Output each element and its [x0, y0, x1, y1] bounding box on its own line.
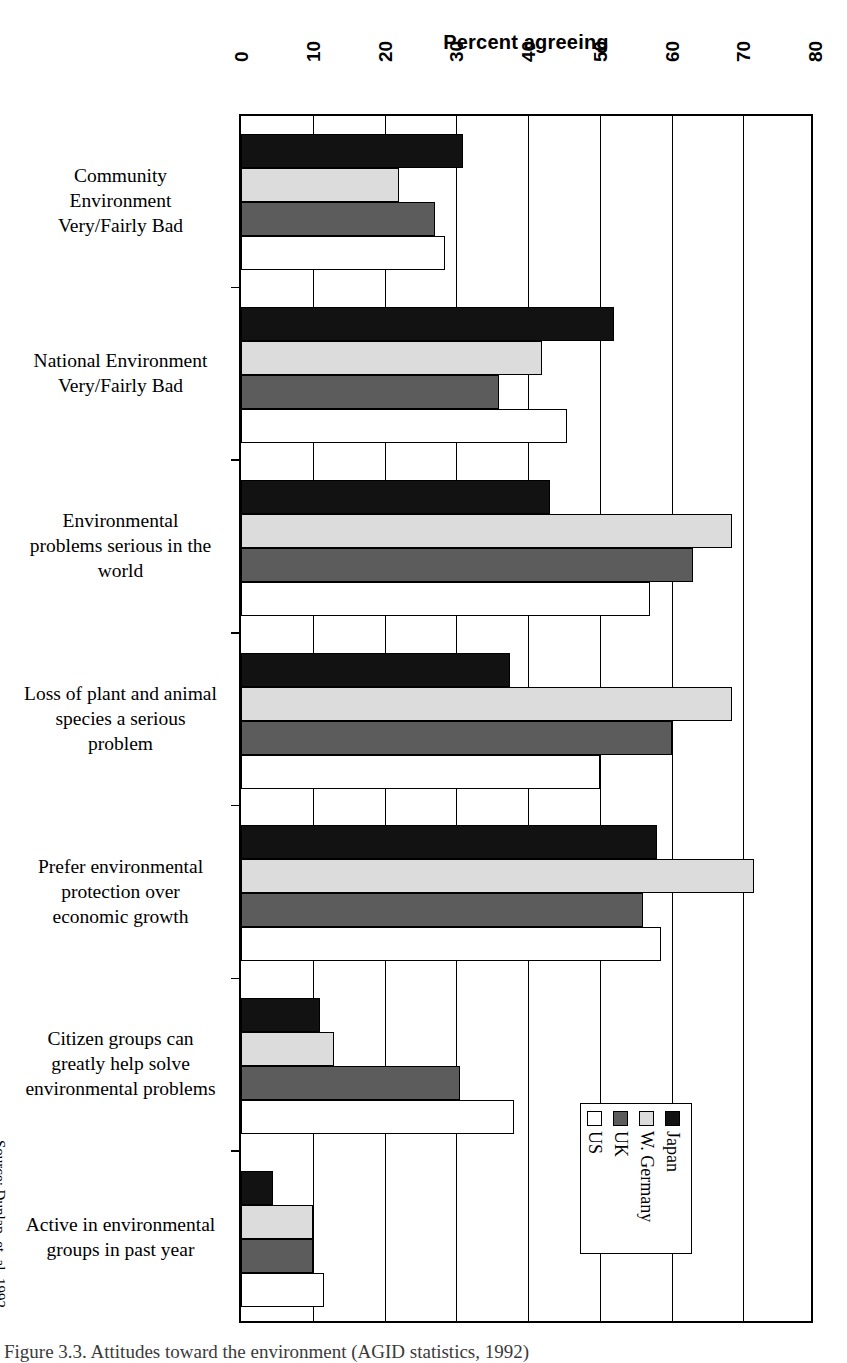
category-label-5: Citizen groups cangreatly help solveenvi… — [8, 1026, 233, 1101]
legend-item-japan: Japan — [660, 1111, 686, 1255]
legend-item-uk: UK — [608, 1111, 634, 1255]
x-tick-label-40: 40 — [518, 41, 540, 62]
category-tick — [231, 459, 240, 461]
bar-wgermany-2 — [241, 514, 732, 548]
legend-label: UK — [611, 1131, 632, 1157]
legend-label: W. Germany — [637, 1131, 658, 1222]
category-label-line: world — [8, 558, 233, 583]
category-label-line: groups in past year — [8, 1237, 233, 1262]
bar-wgermany-3 — [241, 687, 732, 721]
bar-japan-2 — [241, 480, 550, 514]
category-label-line: Active in environmental — [8, 1212, 233, 1237]
category-label-line: Community — [8, 163, 233, 188]
x-tick-label-0: 0 — [231, 51, 253, 62]
bar-uk-0 — [241, 202, 435, 236]
x-tick-label-80: 80 — [805, 41, 827, 62]
bar-japan-0 — [241, 134, 463, 168]
category-label-4: Prefer environmentalprotection overecono… — [8, 854, 233, 929]
bar-japan-4 — [241, 825, 657, 859]
bar-wgermany-4 — [241, 859, 754, 893]
category-label-line: greatly help solve — [8, 1051, 233, 1076]
x-tick-label-30: 30 — [446, 41, 468, 62]
bar-wgermany-6 — [241, 1205, 313, 1239]
bar-japan-1 — [241, 307, 614, 341]
category-tick — [231, 1150, 240, 1152]
category-label-line: environmental problems — [8, 1076, 233, 1101]
category-label-6: Active in environmentalgroups in past ye… — [8, 1212, 233, 1262]
bar-us-1 — [241, 409, 567, 443]
x-tick-label-10: 10 — [303, 41, 325, 62]
bar-us-3 — [241, 755, 600, 789]
x-tick-label-20: 20 — [375, 41, 397, 62]
figure-caption: Figure 3.3. Attitudes toward the environ… — [4, 1341, 529, 1363]
bar-japan-3 — [241, 653, 510, 687]
legend-items: JapanW. GermanyUKUS — [581, 1104, 693, 1255]
bar-us-4 — [241, 927, 661, 961]
legend-label: Japan — [663, 1131, 684, 1172]
legend-swatch-uk-icon — [614, 1111, 629, 1126]
bar-uk-2 — [241, 548, 693, 582]
bar-us-0 — [241, 236, 445, 270]
category-tick — [231, 632, 240, 634]
legend-swatch-wgermany-icon — [640, 1111, 655, 1126]
legend-label: US — [585, 1131, 606, 1154]
legend-swatch-us-icon — [588, 1111, 603, 1126]
bar-uk-6 — [241, 1239, 313, 1273]
bar-us-6 — [241, 1273, 324, 1307]
category-label-line: Prefer environmental — [8, 854, 233, 879]
category-label-1: National EnvironmentVery/Fairly Bad — [8, 348, 233, 398]
bar-wgermany-0 — [241, 168, 399, 202]
bar-uk-3 — [241, 721, 672, 755]
bar-uk-5 — [241, 1066, 460, 1100]
category-label-line: species a serious — [8, 706, 233, 731]
category-label-line: Very/Fairly Bad — [8, 373, 233, 398]
category-label-3: Loss of plant and animalspecies a seriou… — [8, 681, 233, 756]
category-label-line: Loss of plant and animal — [8, 681, 233, 706]
bar-uk-4 — [241, 893, 643, 927]
bar-japan-6 — [241, 1171, 273, 1205]
legend-item-wgermany: W. Germany — [634, 1111, 660, 1255]
x-tick-label-70: 70 — [733, 41, 755, 62]
category-label-line: economic growth — [8, 904, 233, 929]
legend-swatch-japan-icon — [666, 1111, 681, 1126]
category-label-line: National Environment — [8, 348, 233, 373]
category-label-line: Environmental — [8, 508, 233, 533]
source-note: Source: Dunlap, et. al. 1992 — [0, 1140, 8, 1308]
category-label-line: Citizen groups can — [8, 1026, 233, 1051]
category-tick — [231, 978, 240, 980]
category-label-line: problems serious in the — [8, 533, 233, 558]
category-label-line: problem — [8, 731, 233, 756]
x-tick-label-50: 50 — [590, 41, 612, 62]
bar-wgermany-5 — [241, 1032, 334, 1066]
category-tick — [231, 287, 240, 289]
legend-item-us: US — [582, 1111, 608, 1255]
x-tick-label-60: 60 — [662, 41, 684, 62]
bar-us-5 — [241, 1100, 514, 1134]
bar-japan-5 — [241, 998, 320, 1032]
gridline — [743, 116, 744, 1321]
legend: JapanW. GermanyUKUS — [580, 1103, 692, 1254]
bar-wgermany-1 — [241, 341, 542, 375]
category-label-2: Environmentalproblems serious in theworl… — [8, 508, 233, 583]
category-label-line: Environment — [8, 188, 233, 213]
category-label-line: protection over — [8, 879, 233, 904]
category-tick — [231, 805, 240, 807]
bar-uk-1 — [241, 375, 499, 409]
bar-us-2 — [241, 582, 650, 616]
plot-area: JapanW. GermanyUKUS — [239, 114, 813, 1323]
category-label-0: CommunityEnvironmentVery/Fairly Bad — [8, 163, 233, 238]
category-label-line: Very/Fairly Bad — [8, 213, 233, 238]
